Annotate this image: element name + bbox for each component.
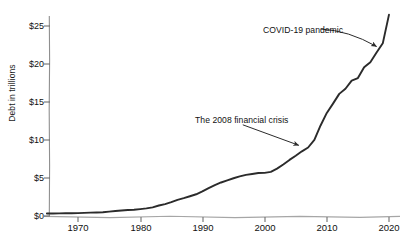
y-tick-label: $15 bbox=[4, 97, 44, 107]
x-axis-spine bbox=[44, 216, 400, 217]
x-tick-label: 2000 bbox=[243, 222, 287, 233]
annotation-arrows bbox=[243, 29, 377, 145]
x-tick-label: 1970 bbox=[56, 222, 100, 233]
y-tick-label: $20 bbox=[4, 59, 44, 69]
y-tick-label: $0 bbox=[4, 211, 44, 221]
x-tick-label: 2020 bbox=[367, 222, 411, 233]
financial-crisis-arrow bbox=[243, 125, 299, 146]
y-tick-label: $5 bbox=[4, 173, 44, 183]
x-tick-label: 1990 bbox=[181, 222, 225, 233]
y-tick-label: $10 bbox=[4, 135, 44, 145]
x-tick-label: 1980 bbox=[119, 222, 163, 233]
annotation-covid-label: COVID-19 pandemic bbox=[263, 25, 343, 35]
x-tick-label: 2010 bbox=[305, 222, 349, 233]
y-tick-label: $25 bbox=[4, 21, 44, 31]
chart-figure: Debt in trillions $25 $20 $15 $10 $5 $0 … bbox=[0, 0, 413, 246]
annotation-financial-crisis-label: The 2008 financial crisis bbox=[195, 115, 288, 125]
y-axis-tick-labels: $25 $20 $15 $10 $5 $0 bbox=[0, 0, 44, 246]
